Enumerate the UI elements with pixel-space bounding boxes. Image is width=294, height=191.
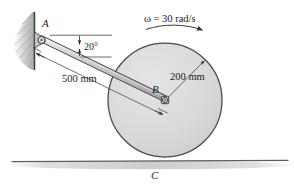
label-point-c: C — [151, 170, 158, 181]
label-angular-velocity: ω = 30 rad/s — [144, 14, 196, 25]
figure-canvas: A B C 20° 500 mm 200 mm ω = 30 rad/s — [0, 0, 294, 191]
wall-support — [13, 11, 34, 70]
label-point-b: B — [152, 84, 159, 95]
pin-joint-b — [161, 96, 168, 103]
label-disk-radius: 200 mm — [170, 72, 205, 83]
label-angle-20deg: 20° — [84, 42, 98, 52]
angular-velocity-arrow — [146, 25, 203, 30]
label-point-a: A — [42, 18, 49, 29]
label-rod-length: 500 mm — [62, 74, 97, 85]
pin-joint-a — [35, 32, 46, 48]
ground-surface — [4, 160, 294, 169]
